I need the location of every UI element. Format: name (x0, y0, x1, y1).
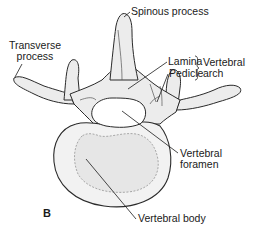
label-spinous-process: Spinous process (131, 6, 209, 17)
vertebra-illustration (0, 0, 254, 230)
leader-transverse (15, 64, 22, 77)
label-transverse-process: Transverse process (8, 40, 62, 62)
label-transverse-line2: process (8, 51, 62, 62)
label-pedicle: Pedicle (169, 68, 203, 79)
vertebra-diagram: Spinous process Transverse process Lamin… (0, 0, 254, 230)
label-vertebral-arch: Vertebral arch (203, 57, 245, 79)
spinous-process-shape (110, 14, 138, 81)
label-vertebral-body: Vertebral body (138, 213, 206, 224)
label-vertebral-foramen: Vertebral foramen (180, 148, 222, 170)
panel-letter: B (43, 207, 51, 219)
label-foramen-line2: foramen (180, 159, 222, 170)
label-lamina: Lamina (168, 56, 202, 67)
right-transverse-process (176, 85, 241, 110)
label-arch-line2: arch (203, 68, 245, 79)
cancellous-bone (75, 134, 159, 193)
